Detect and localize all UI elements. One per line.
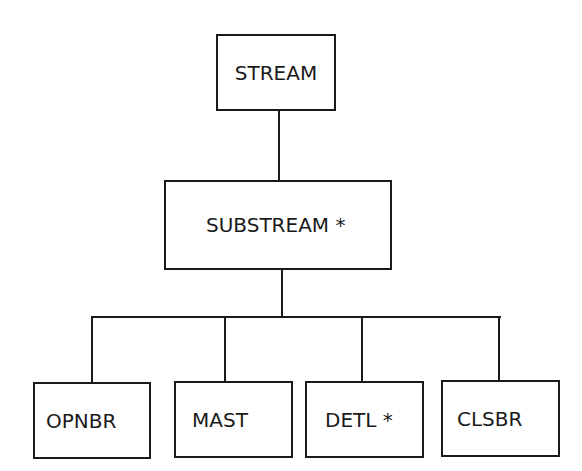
node-label: CLSBR: [457, 407, 522, 431]
node-detl: DETL *: [305, 381, 424, 458]
connector-drop-detl: [361, 316, 363, 382]
node-label: OPNBR: [46, 409, 116, 433]
node-label: SUBSTREAM *: [206, 213, 345, 237]
node-clsbr: CLSBR: [441, 380, 560, 457]
connector-root-substream: [278, 110, 280, 181]
node-label: MAST: [192, 408, 248, 432]
connector-substream-down: [281, 269, 283, 318]
connector-drop-mast: [224, 316, 226, 382]
node-opnbr: OPNBR: [33, 382, 151, 459]
node-label: STREAM: [235, 61, 317, 85]
node-stream: STREAM: [216, 34, 336, 111]
node-mast: MAST: [174, 381, 293, 458]
node-label: DETL *: [325, 408, 393, 432]
connector-drop-opnbr: [91, 316, 93, 382]
node-substream: SUBSTREAM *: [164, 180, 392, 270]
connector-bus: [91, 316, 501, 318]
connector-drop-clsbr: [498, 316, 500, 382]
